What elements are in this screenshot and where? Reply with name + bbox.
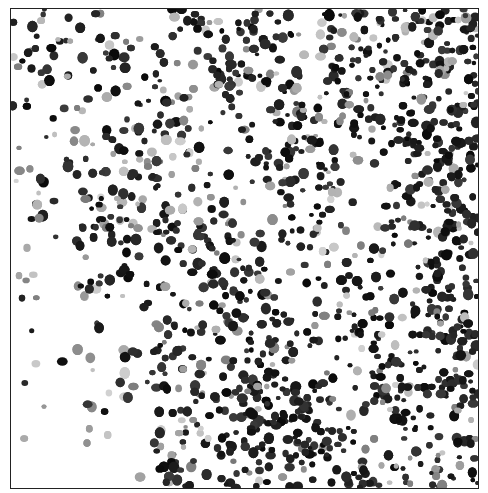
nucleus (292, 481, 303, 488)
nucleus (240, 266, 245, 272)
nucleus (353, 156, 363, 164)
nucleus (105, 41, 114, 50)
nucleus (435, 69, 443, 78)
nucleus (120, 367, 130, 379)
nucleus (358, 112, 364, 118)
nucleus (50, 51, 59, 60)
nucleus (455, 17, 462, 24)
nucleus (376, 483, 383, 488)
nucleus (414, 384, 421, 391)
nucleus (475, 163, 478, 168)
nucleus (361, 26, 368, 34)
nucleus (313, 104, 322, 113)
nucleus (144, 281, 150, 287)
nucleus (298, 168, 308, 179)
nucleus (464, 74, 473, 84)
nucleus (395, 218, 401, 223)
nucleus (352, 276, 363, 286)
nucleus (183, 425, 188, 429)
nucleus (376, 72, 385, 81)
nucleus (128, 383, 138, 391)
nucleus (243, 46, 250, 53)
nucleus (386, 38, 391, 43)
nucleus (353, 385, 358, 391)
nucleus (105, 294, 110, 299)
nucleus (255, 467, 264, 474)
nucleus (413, 184, 420, 192)
nucleus (286, 437, 292, 442)
nucleus (135, 150, 143, 156)
nucleus (344, 91, 349, 97)
nucleus (210, 392, 220, 401)
nucleus (278, 84, 287, 92)
nucleus (270, 362, 275, 367)
nucleus (393, 202, 400, 210)
nucleus (318, 95, 323, 100)
nucleus (208, 172, 213, 176)
nucleus (204, 31, 213, 39)
nucleus (383, 49, 388, 53)
nucleus (180, 260, 187, 267)
nucleus (444, 41, 450, 46)
nucleus (81, 195, 91, 203)
nucleus (154, 449, 160, 454)
nucleus (294, 398, 304, 406)
nucleus (436, 453, 441, 458)
nucleus (248, 340, 254, 345)
nucleus (370, 397, 378, 405)
nucleus (349, 63, 354, 68)
nucleus (154, 407, 164, 418)
nucleus (284, 163, 290, 169)
nucleus (315, 384, 322, 389)
nucleus (249, 331, 254, 336)
nucleus (70, 126, 80, 134)
nucleus (392, 123, 397, 128)
nucleus (162, 340, 167, 344)
nucleus (452, 236, 461, 245)
nucleus (236, 90, 243, 96)
nucleus (293, 452, 299, 458)
nucleus (116, 378, 125, 387)
nucleus (316, 162, 321, 166)
nucleus (343, 336, 348, 341)
nucleus (317, 172, 325, 180)
nucleus (190, 388, 199, 396)
nucleus (16, 272, 22, 279)
nucleus (323, 77, 332, 85)
nucleus (296, 32, 301, 36)
nucleus (185, 481, 194, 488)
nucleus (241, 442, 250, 451)
nucleus (278, 120, 285, 125)
nucleus (331, 163, 340, 171)
nucleus (301, 466, 307, 473)
nucleus (235, 19, 241, 26)
nucleus (158, 343, 163, 348)
nucleus (28, 216, 36, 222)
nucleus (408, 22, 416, 31)
nucleus (106, 56, 113, 62)
nucleus (367, 258, 373, 263)
nucleus (346, 410, 356, 421)
nucleus (288, 358, 295, 364)
nucleus (111, 151, 116, 157)
nucleus (85, 285, 94, 294)
nucleus (384, 450, 393, 460)
nucleus (205, 243, 210, 247)
nucleus (433, 136, 441, 143)
nucleus (445, 152, 453, 159)
nucleus (42, 404, 47, 408)
nucleus (362, 401, 369, 407)
nucleus (196, 301, 204, 307)
nucleus (191, 11, 199, 17)
nucleus (191, 19, 198, 26)
nucleus (169, 153, 176, 160)
nucleus (408, 456, 413, 461)
nucleus (300, 107, 307, 113)
nucleus (228, 80, 233, 85)
nucleus (14, 167, 24, 176)
nucleus (175, 385, 182, 393)
nucleus (409, 221, 419, 231)
nucleus (255, 358, 262, 365)
nucleus (411, 446, 421, 456)
nucleus (307, 244, 313, 251)
